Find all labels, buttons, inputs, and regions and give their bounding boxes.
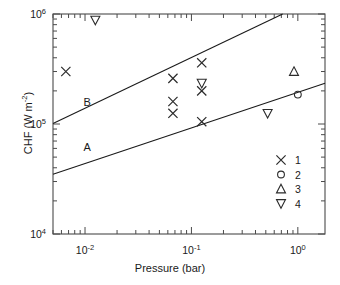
data-point-series-1 (168, 74, 177, 83)
y-tick-label: 104 (30, 227, 46, 240)
trend-line-layer: AB (53, 14, 325, 174)
y-axis-title: CHF (W m-2) (22, 43, 34, 203)
data-point-series-1 (61, 67, 70, 76)
y-tick-label: 106 (30, 7, 46, 20)
plot-canvas: AB 1234 10-210-1100106105104 (0, 0, 340, 285)
data-point-layer (61, 16, 301, 126)
trend-line-label-a: A (84, 141, 92, 153)
legend-label-1: 1 (295, 154, 301, 166)
legend-marker-1 (276, 155, 285, 164)
y-axis-title-exponent: -2 (20, 96, 29, 103)
chf-pressure-figure: AB 1234 10-210-1100106105104 Pressure (b… (0, 0, 340, 285)
legend-label-4: 4 (295, 198, 301, 210)
x-tick-label: 10-1 (182, 243, 200, 256)
data-point-series-1 (168, 97, 177, 106)
legend-marker-4 (277, 200, 286, 209)
legend-marker-2 (278, 171, 285, 178)
data-point-series-4 (197, 79, 206, 88)
legend-marker-3 (277, 184, 286, 193)
data-point-series-1 (168, 109, 177, 118)
tick-label-layer: 10-210-1100106105104 (30, 7, 306, 256)
x-axis-title: Pressure (bar) (0, 262, 340, 274)
y-axis-title-base: CHF (W m (22, 102, 34, 154)
trend-line-label-b: B (84, 96, 91, 108)
data-point-series-1 (197, 58, 206, 67)
legend-label-2: 2 (295, 169, 301, 181)
data-point-series-4 (263, 109, 272, 118)
legend-label-3: 3 (295, 183, 301, 195)
data-point-series-3 (289, 67, 298, 76)
data-point-series-4 (91, 16, 100, 25)
trend-line-a (53, 83, 325, 174)
x-tick-label: 10-2 (76, 243, 94, 256)
y-axis-title-tail: ) (22, 92, 34, 96)
chart-legend: 1234 (276, 154, 301, 210)
x-tick-label: 100 (290, 243, 306, 256)
